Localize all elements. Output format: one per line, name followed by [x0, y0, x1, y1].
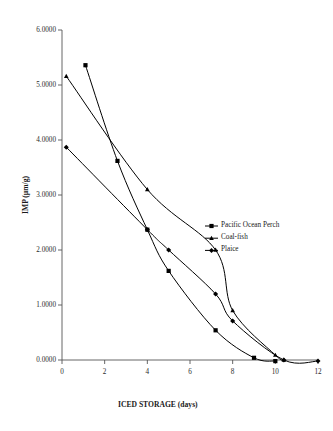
x-tick-label: 10 — [265, 368, 285, 376]
y-tick-label: 4.0000 — [12, 136, 56, 144]
y-tick-label: 3.0000 — [12, 191, 56, 199]
legend-item-label: Coal-fish — [221, 233, 248, 241]
y-tick-label: 0.0000 — [12, 356, 56, 364]
x-tick-label: 2 — [95, 368, 115, 376]
legend-marker — [205, 224, 218, 228]
data-series-layer — [64, 63, 321, 364]
y-tick-label: 6.0000 — [12, 26, 56, 34]
chart-plot-area: IMP (µm/g) — [0, 0, 333, 431]
x-tick-label: 6 — [180, 368, 200, 376]
x-tick-label: 12 — [308, 368, 328, 376]
legend-marker — [205, 236, 218, 240]
y-tick-label: 5.0000 — [12, 81, 56, 89]
data-series — [64, 74, 286, 362]
x-tick-label: 0 — [52, 368, 72, 376]
x-axis-ticks — [62, 360, 318, 364]
legend-item-label: Pacific Ocean Perch — [221, 221, 279, 229]
x-tick-label: 4 — [137, 368, 157, 376]
y-tick-label: 1.0000 — [12, 301, 56, 309]
y-tick-label: 2.0000 — [12, 246, 56, 254]
y-axis-ticks — [58, 30, 62, 360]
legend-item-label: Plaice — [221, 245, 239, 253]
chart-container: IMP (µm/g) 0.00001.00002.00003.00004.000… — [0, 0, 333, 431]
data-series — [64, 145, 321, 364]
x-tick-label: 8 — [223, 368, 243, 376]
x-axis-title: ICED STORAGE (days) — [118, 400, 198, 409]
data-series — [83, 63, 277, 363]
